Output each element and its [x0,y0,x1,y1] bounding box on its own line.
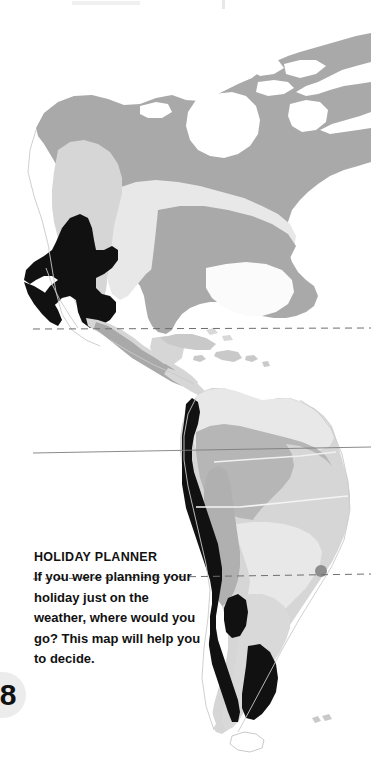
tropic-of-cancer-line [33,328,371,329]
arctic-island-white-1 [192,34,244,50]
bahamas-dots [206,328,233,341]
falkland-dot-2 [322,714,332,721]
holiday-planner-callout: HOLIDAY PLANNER If you were planning you… [34,549,212,670]
jamaica-island [193,355,206,362]
tierra-del-fuego [230,732,264,752]
puerto-rico-island [245,355,258,362]
falkland-dot-1 [312,716,321,723]
page-scan-artifact-top-center [222,0,225,9]
holiday-planner-title: HOLIDAY PLANNER [34,549,212,566]
page-scan-artifact-top-left [72,1,140,5]
atlas-page: HOLIDAY PLANNER If you were planning you… [0,0,371,758]
central-america [86,318,204,396]
page-number: 8 [0,679,16,711]
zone-white-gulf-southeast [206,262,294,316]
arctic-island-white-2 [250,26,300,42]
hispaniola-island [214,350,242,362]
lesser-antilles-1 [262,361,270,367]
holiday-planner-body: If you were planning your holiday just o… [34,567,204,670]
